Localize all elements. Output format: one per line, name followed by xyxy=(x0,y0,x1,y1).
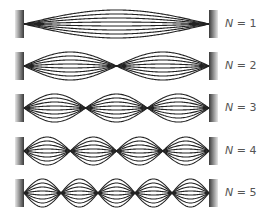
mode-label-variable: N xyxy=(225,101,233,114)
mode-label-variable: N xyxy=(225,17,233,30)
right-wall xyxy=(209,52,218,80)
string-curve xyxy=(24,102,209,114)
mode-label-value: = 3 xyxy=(233,101,256,114)
mode-label-n1: N = 1 xyxy=(225,18,256,30)
standing-waves-diagram xyxy=(0,0,263,222)
string-curve xyxy=(24,98,209,118)
mode-label-value: = 4 xyxy=(233,144,256,157)
string-curve xyxy=(24,98,209,118)
left-wall xyxy=(15,137,24,165)
string-curve xyxy=(24,102,209,114)
string-curve xyxy=(24,106,209,110)
string-curve xyxy=(24,22,209,24)
mode-label-n3: N = 3 xyxy=(225,102,256,114)
string-curve xyxy=(24,106,209,110)
right-wall xyxy=(209,10,218,38)
string-curve xyxy=(24,24,209,26)
mode-label-n2: N = 2 xyxy=(225,60,256,72)
mode-label-variable: N xyxy=(225,144,233,157)
left-wall xyxy=(15,179,24,207)
right-wall xyxy=(209,94,218,122)
mode-label-value: = 2 xyxy=(233,59,256,72)
mode-label-variable: N xyxy=(225,186,233,199)
left-wall xyxy=(15,52,24,80)
right-wall xyxy=(209,179,218,207)
left-wall xyxy=(15,94,24,122)
mode-row-n5 xyxy=(15,179,218,207)
mode-row-n4 xyxy=(15,137,218,165)
mode-row-n2 xyxy=(15,52,218,80)
mode-label-n4: N = 4 xyxy=(225,145,256,157)
left-wall xyxy=(15,10,24,38)
mode-label-value: = 1 xyxy=(233,17,256,30)
right-wall xyxy=(209,137,218,165)
mode-label-n5: N = 5 xyxy=(225,187,256,199)
mode-row-n1 xyxy=(15,10,218,38)
mode-label-variable: N xyxy=(225,59,233,72)
mode-label-value: = 5 xyxy=(233,186,256,199)
mode-row-n3 xyxy=(15,94,218,122)
